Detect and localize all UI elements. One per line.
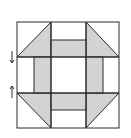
bar-top [51, 40, 86, 57]
shaded-pieces [17, 22, 119, 128]
arrow-up-icon [10, 86, 14, 98]
outer-square [17, 22, 119, 128]
triangle-top-left [17, 22, 51, 57]
side-markers [10, 51, 14, 98]
bar-bottom [51, 93, 86, 110]
triangle-bottom-right [86, 93, 119, 128]
quilt-block-diagram [0, 0, 131, 138]
triangle-bottom-left [17, 93, 51, 128]
bar-left [34, 57, 51, 93]
bar-right [86, 57, 103, 93]
arrow-down-icon [10, 51, 14, 63]
grid-lines [17, 22, 119, 128]
triangle-top-right [86, 22, 119, 57]
